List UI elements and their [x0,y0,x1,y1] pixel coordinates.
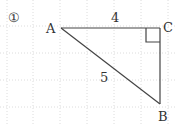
vertex-label-b: B [158,109,168,124]
triangle [61,28,160,104]
right-angle-marker [146,28,160,42]
vertex-label-c: C [163,20,173,35]
triangle-diagram: ① A C B 4 5 [0,0,177,124]
background-grid [0,0,177,124]
problem-number: ① [8,10,20,25]
side-label-ab: 5 [100,70,108,85]
diagram-svg: ① A C B 4 5 [0,0,177,124]
side-label-ac: 4 [111,10,119,25]
side-ab [61,28,160,104]
vertex-label-a: A [45,21,56,36]
